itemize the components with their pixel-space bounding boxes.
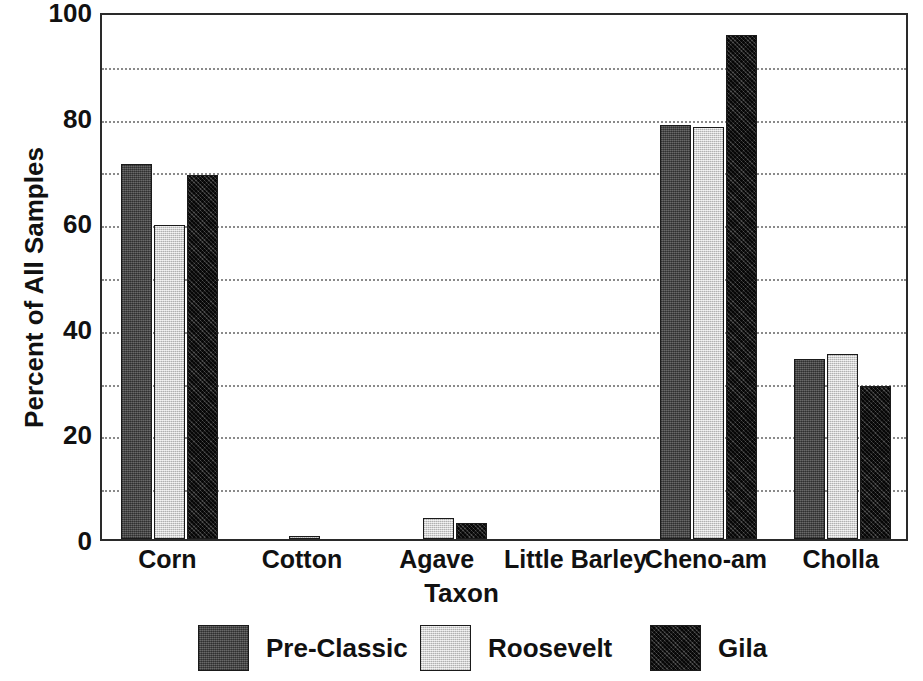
y-axis-tick-label: 0 bbox=[6, 528, 92, 554]
legend-label: Pre-Classic bbox=[266, 633, 408, 664]
plot-inner bbox=[102, 15, 906, 539]
x-axis-title: Taxon bbox=[0, 578, 923, 609]
legend-swatch bbox=[420, 625, 471, 671]
plot-area bbox=[100, 13, 908, 541]
legend-label: Roosevelt bbox=[488, 633, 612, 664]
bar bbox=[827, 354, 858, 539]
legend-swatch bbox=[650, 625, 701, 671]
bar bbox=[794, 359, 825, 539]
x-axis-tick-label: Cheno-am bbox=[639, 546, 774, 574]
x-axis-tick-label: Little Barley bbox=[504, 546, 639, 574]
chart-legend: Pre-ClassicRooseveltGila bbox=[0, 622, 923, 681]
y-axis-tick-label: 40 bbox=[6, 317, 92, 343]
legend-item[interactable]: Pre-Classic bbox=[198, 622, 408, 674]
x-axis-tick-label: Corn bbox=[100, 546, 235, 574]
legend-swatch bbox=[198, 625, 249, 671]
y-axis-tick-label: 80 bbox=[6, 106, 92, 132]
x-axis-tick-label: Cotton bbox=[235, 546, 370, 574]
legend-label: Gila bbox=[718, 633, 767, 664]
bar-group bbox=[102, 15, 910, 539]
y-axis-tick-label: 100 bbox=[6, 0, 92, 26]
bar-chart: Percent of All Samples 020406080100 Corn… bbox=[0, 0, 923, 681]
y-axis-tick-label: 20 bbox=[6, 422, 92, 448]
x-axis-tick-label: Cholla bbox=[773, 546, 908, 574]
legend-item[interactable]: Gila bbox=[650, 622, 767, 674]
x-axis-tick-label: Agave bbox=[369, 546, 504, 574]
bar bbox=[860, 386, 891, 539]
x-axis-tick-labels: CornCottonAgaveLittle BarleyCheno-amChol… bbox=[100, 546, 908, 580]
legend-item[interactable]: Roosevelt bbox=[420, 622, 612, 674]
y-axis-tick-label: 60 bbox=[6, 211, 92, 237]
